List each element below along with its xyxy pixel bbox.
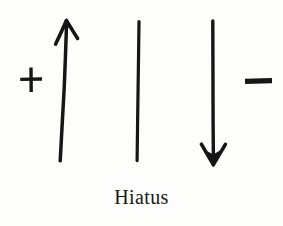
plus-sign-glyph	[20, 67, 42, 92]
up-arrow	[56, 19, 78, 161]
minus-sign-glyph	[245, 81, 272, 82]
minus-sign-bar	[245, 81, 272, 82]
hiatus-diagram: Hiatus	[0, 0, 283, 226]
plain-vertical-line-shaft	[137, 22, 139, 161]
up-arrow-shaft	[60, 24, 66, 161]
plain-vertical-line	[137, 22, 139, 161]
diagram-caption: Hiatus	[0, 186, 283, 208]
down-arrow-shaft	[213, 21, 214, 160]
down-arrow	[201, 21, 225, 166]
